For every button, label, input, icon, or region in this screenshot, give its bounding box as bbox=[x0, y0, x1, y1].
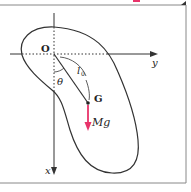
force-label: Mg bbox=[91, 116, 110, 129]
x-axis-label: x bbox=[45, 165, 51, 176]
y-axis-label: y bbox=[151, 57, 158, 68]
center-of-mass-label: G bbox=[94, 93, 103, 104]
length-label: l bbox=[77, 65, 80, 76]
length-label-subscript: 0 bbox=[81, 70, 85, 77]
theta-arc bbox=[54, 68, 64, 72]
rigid-body-outline bbox=[21, 27, 138, 173]
length-arc-lower bbox=[86, 80, 89, 100]
center-of-mass-dot bbox=[86, 101, 90, 105]
angle-label: θ bbox=[57, 76, 63, 87]
diagram-canvas: O θ l 0 G Mg y x bbox=[0, 0, 191, 192]
origin-label: O bbox=[41, 43, 50, 54]
gravity-force-arrow-icon bbox=[85, 122, 92, 131]
corner-mark-icon bbox=[181, 1, 186, 5]
x-axis-arrow-icon bbox=[51, 167, 57, 175]
physical-pendulum-diagram: O θ l 0 G Mg y x bbox=[0, 0, 191, 192]
